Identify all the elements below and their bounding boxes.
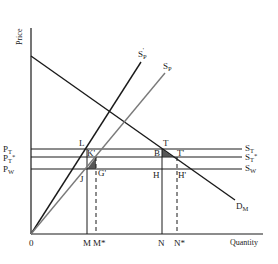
qty-label-n: N	[158, 238, 165, 248]
label-demand: DM	[236, 201, 249, 212]
point-g: G'	[98, 168, 106, 178]
point-t: T	[163, 138, 169, 148]
price-label-pw: PW	[3, 164, 15, 175]
qty-label-m: M	[83, 238, 91, 248]
point-t-prime: T'	[177, 148, 184, 158]
point-b: B	[154, 148, 160, 158]
label-supply-p: SP	[163, 61, 172, 72]
point-h: H	[153, 170, 160, 180]
shaded-area-k	[87, 157, 96, 169]
point-l: L	[79, 138, 85, 148]
label-sw: SW	[245, 163, 257, 174]
label-supply-p-prime: SP'	[138, 46, 147, 60]
origin-label: 0	[29, 238, 34, 248]
point-k: K'	[87, 148, 95, 158]
qty-label-n-star: N*	[174, 238, 185, 248]
trade-policy-diagram: Price Quantity 0 PT PT* PW ST ST* SW DM …	[0, 0, 278, 264]
qty-label-m-star: M*	[93, 238, 106, 248]
y-axis-label: Price	[15, 28, 24, 45]
point-h-prime: H'	[178, 170, 186, 180]
supply-p-curve	[31, 73, 165, 234]
supply-p-prime-curve	[31, 62, 141, 234]
x-axis-label: Quantity	[230, 238, 258, 247]
point-j: J	[80, 174, 84, 184]
demand-curve	[31, 56, 235, 200]
